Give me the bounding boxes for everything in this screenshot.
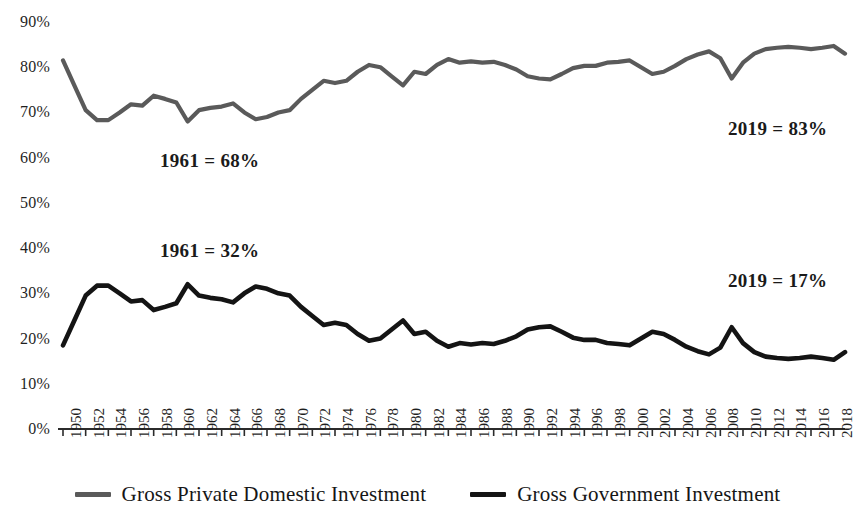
x-axis-tick-label: 1970	[296, 408, 311, 438]
chart-legend: Gross Private Domestic InvestmentGross G…	[0, 484, 855, 505]
x-axis-tick-label: 1972	[318, 408, 333, 438]
series-group	[63, 46, 845, 360]
x-axis-tick-label: 2012	[772, 408, 787, 438]
y-axis-tick-label: 20%	[2, 331, 50, 347]
x-axis-tick-label: 1956	[137, 408, 152, 438]
x-axis-tick-label: 1968	[273, 408, 288, 438]
x-axis-tick-label: 1988	[500, 408, 515, 438]
x-axis-tick-label: 2004	[681, 408, 696, 438]
x-axis-tick-label: 1994	[568, 408, 583, 438]
y-axis-tick-label: 10%	[2, 376, 50, 392]
x-axis-tick-label: 2016	[817, 408, 832, 438]
legend-line-swatch	[75, 492, 111, 497]
y-axis-tick-label: 90%	[2, 14, 50, 30]
x-axis-tick-label: 1966	[250, 408, 265, 438]
y-axis: 90%80%70%60%50%40%30%20%10%0%	[0, 0, 50, 440]
x-axis-tick-label: 2002	[658, 408, 673, 438]
x-axis-tick-label: 2014	[794, 408, 809, 438]
x-axis-tick-label: 1958	[160, 408, 175, 438]
y-axis-tick-label: 40%	[2, 240, 50, 256]
x-axis-tick-label: 2010	[749, 408, 764, 438]
x-axis-tick-label: 1960	[182, 408, 197, 438]
x-axis-tick-label: 1954	[114, 408, 129, 438]
chart-annotation: 2019 = 83%	[728, 118, 827, 140]
x-axis-tick-label: 1998	[613, 408, 628, 438]
x-axis-tick-label: 1992	[545, 408, 560, 438]
legend-line-swatch	[470, 492, 506, 497]
chart-annotation: 1961 = 68%	[160, 150, 259, 172]
series-line	[63, 284, 845, 360]
x-axis-tick-label: 1978	[386, 408, 401, 438]
x-axis-tick-label: 2018	[840, 408, 855, 438]
x-axis-tick-label: 2006	[704, 408, 719, 438]
y-axis-tick-label: 80%	[2, 59, 50, 75]
plot-area	[0, 0, 855, 521]
x-axis-tick-label: 1950	[69, 408, 84, 438]
series-line	[63, 46, 845, 122]
y-axis-tick-label: 50%	[2, 195, 50, 211]
y-axis-tick-label: 30%	[2, 285, 50, 301]
x-axis-tick-label: 1984	[454, 408, 469, 438]
chart-container: 90%80%70%60%50%40%30%20%10%0% 1950195219…	[0, 0, 855, 521]
x-axis-tick-label: 1986	[477, 408, 492, 438]
legend-entry[interactable]: Gross Private Domestic Investment	[75, 484, 427, 505]
x-axis-tick-label: 1964	[228, 408, 243, 438]
y-axis-tick-label: 0%	[2, 421, 50, 437]
x-axis-tick-label: 1962	[205, 408, 220, 438]
y-axis-tick-label: 70%	[2, 104, 50, 120]
legend-entry[interactable]: Gross Government Investment	[470, 484, 780, 505]
legend-label: Gross Government Investment	[517, 484, 780, 505]
chart-annotation: 2019 = 17%	[728, 270, 827, 292]
x-axis-tick-label: 2000	[636, 408, 651, 438]
legend-label: Gross Private Domestic Investment	[122, 484, 427, 505]
x-axis-tick-label: 1974	[341, 408, 356, 438]
x-axis-tick-label: 1976	[364, 408, 379, 438]
x-axis-tick-label: 1990	[522, 408, 537, 438]
y-axis-tick-label: 60%	[2, 150, 50, 166]
x-axis-tick-label: 2008	[726, 408, 741, 438]
x-axis-tick-label: 1952	[92, 408, 107, 438]
x-axis-tick-label: 1980	[409, 408, 424, 438]
x-axis-tick-label: 1982	[432, 408, 447, 438]
chart-annotation: 1961 = 32%	[160, 240, 259, 262]
x-axis-tick-label: 1996	[590, 408, 605, 438]
